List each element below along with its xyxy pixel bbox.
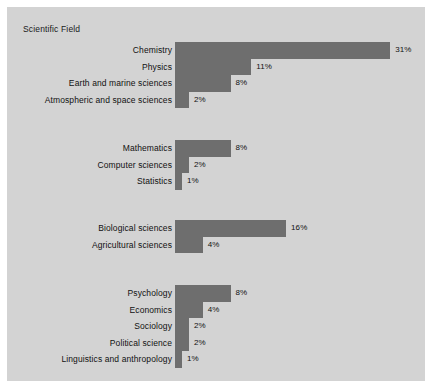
bar-track: 2% — [175, 335, 425, 352]
bar-category-label: Linguistics and anthropology — [61, 351, 172, 368]
bar-value-label: 8% — [236, 140, 248, 157]
bar-row[interactable]: Agricultural sciences4% — [7, 237, 425, 254]
bar-value-label: 11% — [256, 59, 272, 76]
bar-value-label: 8% — [236, 75, 248, 92]
bar-fill[interactable] — [175, 59, 251, 76]
bar-category-label: Chemistry — [133, 42, 172, 59]
bar-fill[interactable] — [175, 92, 189, 109]
bar-fill[interactable] — [175, 335, 189, 352]
bar-track: 2% — [175, 318, 425, 335]
bar-track: 2% — [175, 92, 425, 109]
bar-track: 8% — [175, 285, 425, 302]
bar-group-social-sciences: Psychology8%Economics4%Sociology2%Politi… — [7, 285, 425, 368]
bar-group-mathematical-sciences: Mathematics8%Computer sciences2%Statisti… — [7, 140, 425, 190]
bar-value-label: 1% — [187, 173, 199, 190]
bar-fill[interactable] — [175, 220, 286, 237]
bar-track: 11% — [175, 59, 425, 76]
bar-fill[interactable] — [175, 173, 182, 190]
bar-category-label: Earth and marine sciences — [69, 75, 172, 92]
chart-title: Scientific Field — [23, 24, 80, 34]
bar-fill[interactable] — [175, 140, 231, 157]
bar-value-label: 31% — [395, 42, 411, 59]
bar-track: 8% — [175, 75, 425, 92]
bar-fill[interactable] — [175, 351, 182, 368]
bar-fill[interactable] — [175, 75, 231, 92]
bar-category-label: Atmospheric and space sciences — [45, 92, 172, 109]
bar-track: 4% — [175, 237, 425, 254]
bar-category-label: Computer sciences — [98, 157, 172, 174]
bar-value-label: 4% — [208, 302, 220, 319]
bar-category-label: Psychology — [128, 285, 172, 302]
bar-value-label: 16% — [291, 220, 307, 237]
bar-fill[interactable] — [175, 302, 203, 319]
bar-category-label: Economics — [130, 302, 172, 319]
bar-row[interactable]: Political science2% — [7, 335, 425, 352]
bar-row[interactable]: Atmospheric and space sciences2% — [7, 92, 425, 109]
bar-row[interactable]: Statistics1% — [7, 173, 425, 190]
chart-panel: Scientific Field Chemistry31%Physics11%E… — [7, 7, 425, 381]
bar-value-label: 8% — [236, 285, 248, 302]
bar-track: 31% — [175, 42, 425, 59]
bar-category-label: Political science — [110, 335, 172, 352]
bar-group-life-sciences: Biological sciences16%Agricultural scien… — [7, 220, 425, 253]
bar-category-label: Sociology — [134, 318, 172, 335]
bar-row[interactable]: Psychology8% — [7, 285, 425, 302]
bar-value-label: 2% — [194, 92, 206, 109]
bar-row[interactable]: Earth and marine sciences8% — [7, 75, 425, 92]
bar-fill[interactable] — [175, 285, 231, 302]
bar-track: 4% — [175, 302, 425, 319]
bar-row[interactable]: Physics11% — [7, 59, 425, 76]
bar-fill[interactable] — [175, 318, 189, 335]
bar-track: 1% — [175, 351, 425, 368]
bar-category-label: Physics — [142, 59, 172, 76]
bar-row[interactable]: Sociology2% — [7, 318, 425, 335]
bar-row[interactable]: Computer sciences2% — [7, 157, 425, 174]
bar-value-label: 2% — [194, 157, 206, 174]
bar-group-physical-sciences: Chemistry31%Physics11%Earth and marine s… — [7, 42, 425, 108]
bar-value-label: 4% — [208, 237, 220, 254]
bar-track: 8% — [175, 140, 425, 157]
bar-category-label: Statistics — [137, 173, 172, 190]
bar-fill[interactable] — [175, 157, 189, 174]
bar-value-label: 1% — [187, 351, 199, 368]
bar-row[interactable]: Linguistics and anthropology1% — [7, 351, 425, 368]
bar-category-label: Biological sciences — [98, 220, 172, 237]
bar-row[interactable]: Chemistry31% — [7, 42, 425, 59]
bar-value-label: 2% — [194, 318, 206, 335]
bar-track: 1% — [175, 173, 425, 190]
bar-value-label: 2% — [194, 335, 206, 352]
bar-category-label: Agricultural sciences — [92, 237, 172, 254]
bar-row[interactable]: Economics4% — [7, 302, 425, 319]
bar-track: 16% — [175, 220, 425, 237]
bar-fill[interactable] — [175, 42, 390, 59]
bar-row[interactable]: Biological sciences16% — [7, 220, 425, 237]
bar-category-label: Mathematics — [123, 140, 172, 157]
bar-track: 2% — [175, 157, 425, 174]
bar-row[interactable]: Mathematics8% — [7, 140, 425, 157]
bar-fill[interactable] — [175, 237, 203, 254]
